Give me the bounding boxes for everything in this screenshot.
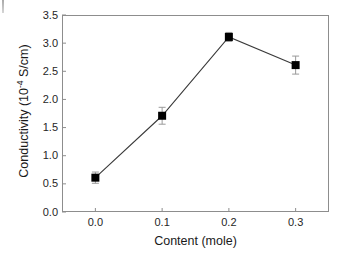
x-axis-tick-label: 0.3 bbox=[276, 216, 316, 228]
figure-canvas: 0.00.51.01.52.02.53.03.5 0.00.10.20.3 Co… bbox=[0, 0, 339, 261]
x-axis-tick-label: 0.2 bbox=[209, 216, 249, 228]
y-axis-title: Conductivity (10-4 S/cm) bbox=[17, 11, 31, 211]
data-line bbox=[95, 37, 295, 178]
x-axis-tick-label: 0.0 bbox=[75, 216, 115, 228]
error-bars bbox=[92, 32, 299, 183]
y-axis-title-main: Conductivity (10 bbox=[17, 88, 31, 178]
tick-marks bbox=[62, 15, 296, 212]
y-axis-title-tail: S/cm) bbox=[17, 44, 31, 80]
y-axis-title-exponent: -4 bbox=[15, 80, 25, 88]
data-markers bbox=[91, 33, 299, 182]
x-axis-tick-label: 0.1 bbox=[142, 216, 182, 228]
x-axis-title: Content (mole) bbox=[62, 234, 329, 248]
